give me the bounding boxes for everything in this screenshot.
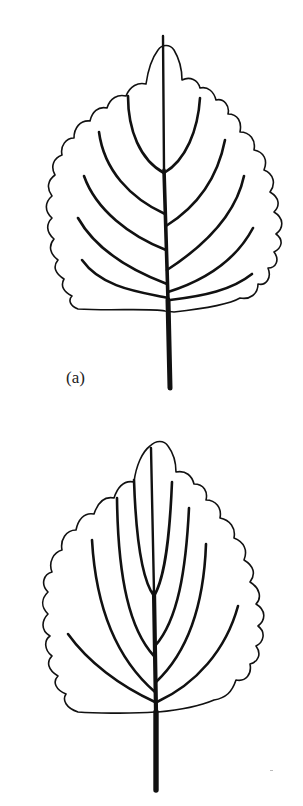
leaf-a-vein-left-1 xyxy=(128,96,164,173)
leaf-a-drawing xyxy=(0,0,303,400)
leaf-a-midrib xyxy=(163,36,164,170)
panel-label-a: (a) xyxy=(66,368,85,388)
leaf-b-midrib xyxy=(151,448,154,592)
leaf-diagram-a: (a) xyxy=(0,0,303,400)
leaf-b-midrib-lower xyxy=(154,592,156,712)
leaf-a-vein-left-2 xyxy=(99,132,165,214)
leaf-b-vein-left-4 xyxy=(68,634,155,702)
leaf-a-vein-left-4 xyxy=(78,218,167,284)
scan-speck xyxy=(270,770,273,771)
leaf-diagram-b: (b) xyxy=(0,400,303,806)
leaf-b-drawing xyxy=(0,400,303,806)
leaf-a-midrib-lower xyxy=(164,170,168,300)
leaf-b-vein-right-1 xyxy=(154,482,172,596)
leaf-a-vein-right-1 xyxy=(164,98,200,173)
leaf-a-petiole xyxy=(168,300,170,388)
leaf-a-vein-right-2 xyxy=(166,140,225,226)
